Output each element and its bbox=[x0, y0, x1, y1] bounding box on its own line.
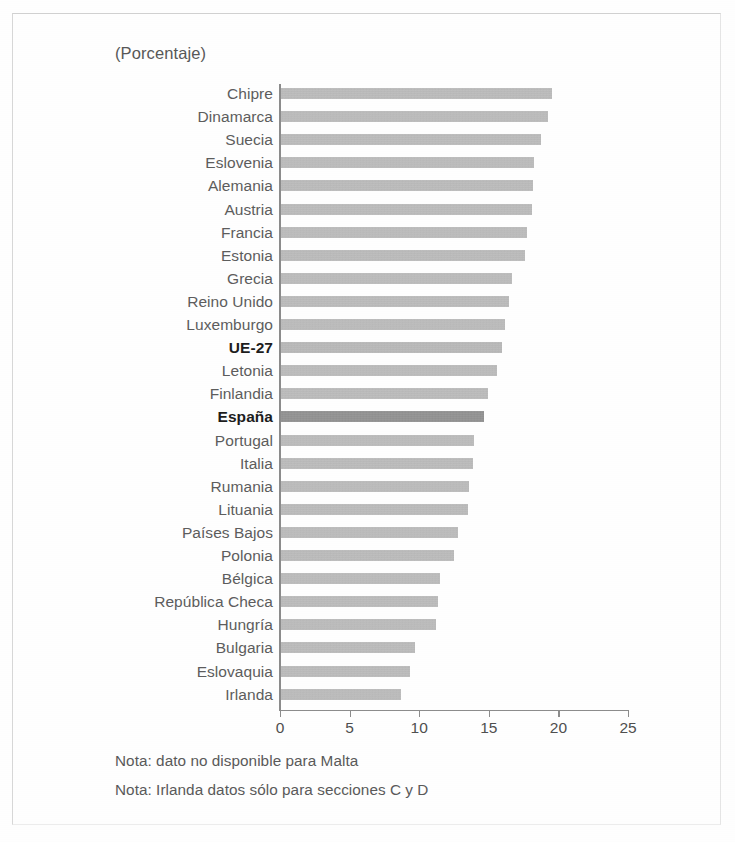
bar bbox=[281, 134, 541, 145]
bar-row: Bulgaria bbox=[0, 638, 735, 661]
x-axis-tick bbox=[419, 710, 420, 717]
y-axis-line bbox=[279, 84, 281, 710]
bar bbox=[281, 111, 548, 122]
bar bbox=[281, 388, 488, 399]
bar bbox=[281, 573, 440, 584]
category-label: Letonia bbox=[222, 362, 273, 380]
category-label: Bélgica bbox=[222, 570, 273, 588]
bar bbox=[281, 365, 497, 376]
bar bbox=[281, 227, 527, 238]
bar-row: Francia bbox=[0, 223, 735, 246]
bar bbox=[281, 180, 533, 191]
category-label: Eslovenia bbox=[205, 154, 273, 172]
bar bbox=[281, 296, 509, 307]
category-label: Portugal bbox=[215, 432, 273, 450]
bar-row: Finlandia bbox=[0, 384, 735, 407]
category-label: Eslovaquia bbox=[197, 663, 273, 681]
x-axis-tick-label: 0 bbox=[276, 719, 285, 737]
x-axis-tick bbox=[350, 710, 351, 717]
category-label: UE-27 bbox=[229, 339, 273, 357]
category-label: Hungría bbox=[218, 616, 274, 634]
unit-label: (Porcentaje) bbox=[115, 44, 206, 63]
bar-row: Alemania bbox=[0, 176, 735, 199]
bar bbox=[281, 435, 474, 446]
bar bbox=[281, 319, 505, 330]
category-label: Reino Unido bbox=[187, 293, 273, 311]
bar-row: Letonia bbox=[0, 361, 735, 384]
bar-row: Luxemburgo bbox=[0, 315, 735, 338]
bar-row: Polonia bbox=[0, 546, 735, 569]
bar bbox=[281, 642, 415, 653]
bar-row: España bbox=[0, 407, 735, 430]
x-axis-tick-label: 15 bbox=[480, 719, 497, 737]
x-axis-tick bbox=[628, 710, 629, 717]
category-label: Grecia bbox=[227, 270, 273, 288]
bar bbox=[281, 342, 502, 353]
bar bbox=[281, 250, 525, 261]
bar bbox=[281, 458, 473, 469]
chart-note-malta: Nota: dato no disponible para Malta bbox=[115, 752, 358, 770]
bar-row: Estonia bbox=[0, 246, 735, 269]
x-axis-line bbox=[279, 710, 629, 711]
bar-row: Suecia bbox=[0, 130, 735, 153]
category-label: Chipre bbox=[227, 85, 273, 103]
bar-row: Eslovenia bbox=[0, 153, 735, 176]
bar bbox=[281, 504, 468, 515]
category-label: Polonia bbox=[221, 547, 273, 565]
x-axis-tick-label: 10 bbox=[411, 719, 428, 737]
category-label: Lituania bbox=[218, 501, 273, 519]
category-label: Dinamarca bbox=[198, 108, 273, 126]
category-label: Suecia bbox=[225, 131, 273, 149]
bar-row: República Checa bbox=[0, 592, 735, 615]
bar-row: Italia bbox=[0, 454, 735, 477]
plot-area: ChipreDinamarcaSueciaEsloveniaAlemaniaAu… bbox=[0, 84, 735, 710]
category-label: Países Bajos bbox=[182, 524, 273, 542]
bar bbox=[281, 88, 552, 99]
bar-row: Grecia bbox=[0, 269, 735, 292]
bar-row: Irlanda bbox=[0, 685, 735, 708]
bar bbox=[281, 157, 534, 168]
bar-row: Dinamarca bbox=[0, 107, 735, 130]
category-label: Rumania bbox=[211, 478, 273, 496]
bar bbox=[281, 666, 410, 677]
bar bbox=[281, 204, 532, 215]
bar bbox=[281, 596, 438, 607]
bar-row: Austria bbox=[0, 200, 735, 223]
bar-row: Reino Unido bbox=[0, 292, 735, 315]
category-label: Luxemburgo bbox=[186, 316, 273, 334]
bar-chart-figure: (Porcentaje) ChipreDinamarcaSueciaEslove… bbox=[0, 0, 735, 842]
bar-row: Portugal bbox=[0, 431, 735, 454]
bar bbox=[281, 619, 436, 630]
bar-row: Eslovaquia bbox=[0, 662, 735, 685]
bar-row: Rumania bbox=[0, 477, 735, 500]
bar bbox=[281, 527, 458, 538]
x-axis-tick bbox=[280, 710, 281, 717]
x-axis-tick bbox=[489, 710, 490, 717]
x-axis-tick-label: 20 bbox=[550, 719, 567, 737]
chart-note-irlanda: Nota: Irlanda datos sólo para secciones … bbox=[115, 781, 428, 799]
category-label: Bulgaria bbox=[216, 639, 273, 657]
bar-row: UE-27 bbox=[0, 338, 735, 361]
bar-row: Hungría bbox=[0, 615, 735, 638]
bar-row: Lituania bbox=[0, 500, 735, 523]
category-label: España bbox=[218, 408, 273, 426]
bar-row: Países Bajos bbox=[0, 523, 735, 546]
category-label: Italia bbox=[240, 455, 273, 473]
category-label: Finlandia bbox=[210, 385, 273, 403]
bar-row: Bélgica bbox=[0, 569, 735, 592]
category-label: Estonia bbox=[221, 247, 273, 265]
category-label: Alemania bbox=[208, 177, 273, 195]
category-label: República Checa bbox=[154, 593, 273, 611]
category-label: Austria bbox=[224, 201, 273, 219]
bar bbox=[281, 273, 512, 284]
bar-row: Chipre bbox=[0, 84, 735, 107]
category-label: Irlanda bbox=[225, 686, 273, 704]
bar bbox=[281, 689, 401, 700]
bar bbox=[281, 481, 469, 492]
x-axis-tick bbox=[558, 710, 559, 717]
x-axis-tick-label: 25 bbox=[619, 719, 636, 737]
x-axis-tick-label: 5 bbox=[345, 719, 354, 737]
bar bbox=[281, 411, 484, 422]
category-label: Francia bbox=[221, 224, 273, 242]
bar bbox=[281, 550, 454, 561]
